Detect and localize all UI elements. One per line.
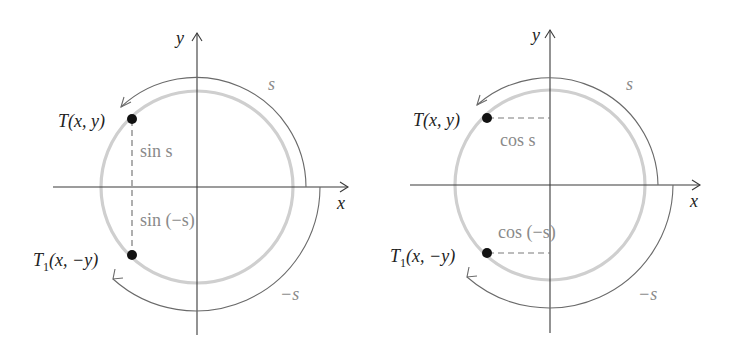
arc-s-label: s xyxy=(268,74,275,94)
arc-minus-s-arrow-icon xyxy=(113,269,123,279)
x-axis-label: x xyxy=(689,191,698,211)
cosine-diagram: y x T(x, y) T1(x, −y) cos s cos (−s) s −… xyxy=(390,25,700,333)
point-T-label: T(x, y) xyxy=(413,110,460,131)
y-axis-label: y xyxy=(174,28,184,48)
point-T-label: T(x, y) xyxy=(58,111,105,132)
arc-minus-s-label: −s xyxy=(280,284,299,304)
arc-minus-s-label: −s xyxy=(638,284,657,304)
point-T1-label: T1(x, −y) xyxy=(33,250,98,274)
x-axis-label: x xyxy=(336,193,345,213)
sine-diagram: y x T(x, y) T1(x, −y) sin s sin (−s) s −… xyxy=(33,28,348,335)
point-T xyxy=(482,113,492,123)
unit-circle-diagrams: y x T(x, y) T1(x, −y) sin s sin (−s) s −… xyxy=(0,0,735,354)
cos-minus-s-label: cos (−s) xyxy=(498,222,556,243)
point-T1-label: T1(x, −y) xyxy=(390,246,455,270)
cos-s-label: cos s xyxy=(500,130,536,150)
point-T xyxy=(127,114,137,124)
sin-minus-s-label: sin (−s) xyxy=(140,210,195,231)
sin-s-label: sin s xyxy=(140,141,173,161)
point-T1 xyxy=(127,250,137,260)
arc-s-label: s xyxy=(626,74,633,94)
arc-minus-s-arrow-icon xyxy=(467,267,477,277)
point-T1 xyxy=(482,248,492,258)
y-axis-label: y xyxy=(530,25,540,45)
